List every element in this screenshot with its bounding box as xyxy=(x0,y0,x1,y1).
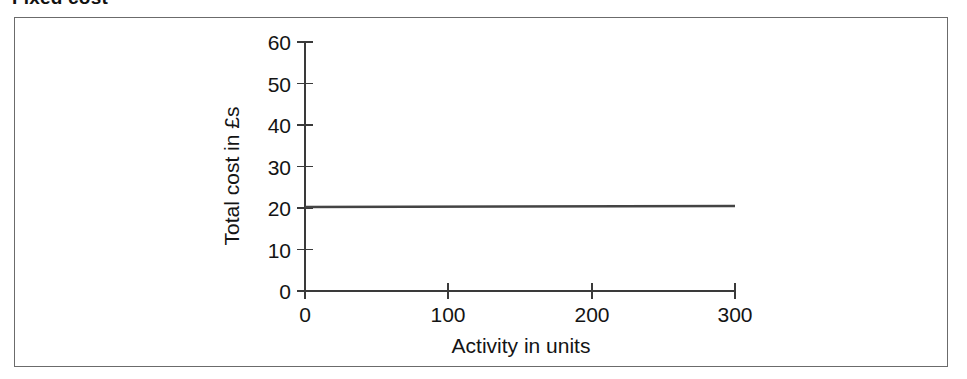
x-tick-label: 300 xyxy=(717,303,752,326)
x-tick-labels: 0 100 200 300 xyxy=(299,303,752,326)
x-tick-label: 0 xyxy=(299,303,311,326)
y-tick-label: 0 xyxy=(279,280,291,303)
data-series-line xyxy=(305,206,735,207)
y-tick-label: 40 xyxy=(268,114,291,137)
figure-page: Fixed cost xyxy=(0,0,967,379)
chart-svg: 60 50 40 30 20 10 0 0 100 200 300 Total … xyxy=(0,0,967,379)
y-tick-label: 30 xyxy=(268,156,291,179)
x-tick-label: 200 xyxy=(574,303,609,326)
chart-plot-area: 60 50 40 30 20 10 0 0 100 200 300 Total … xyxy=(0,0,967,379)
y-tick-labels: 60 50 40 30 20 10 0 xyxy=(268,31,291,303)
y-tick-label: 60 xyxy=(268,31,291,54)
x-tick-label: 100 xyxy=(430,303,465,326)
y-tick-label: 50 xyxy=(268,73,291,96)
x-axis-title: Activity in units xyxy=(452,334,591,357)
y-tick-label: 20 xyxy=(268,197,291,220)
y-tick-label: 10 xyxy=(268,239,291,262)
y-axis-title: Total cost in £s xyxy=(220,107,243,246)
